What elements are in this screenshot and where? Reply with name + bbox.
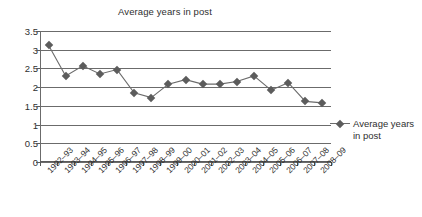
gridline [40,143,331,144]
legend-diamond-marker-icon [336,119,344,127]
y-axis-tick-mark [36,87,40,88]
legend-swatch [330,118,350,129]
chart-title: Average years in post [0,6,330,17]
y-axis-tick-label: 1 [0,119,38,130]
gridline [40,31,331,32]
y-axis-tick-mark [36,106,40,107]
y-axis-tick-label: 2.5 [0,63,38,74]
y-axis-tick-label: 1.5 [0,100,38,111]
y-axis-tick-label: 2 [0,82,38,93]
y-axis-line [40,31,41,162]
gridline [40,125,331,126]
gridline [40,50,331,51]
y-axis-tick-label: 0 [0,157,38,168]
chart-legend: Average years in post [330,118,415,142]
y-axis-tick-label: 3.5 [0,26,38,37]
y-axis-tick-mark [36,125,40,126]
plot-area [40,31,331,162]
x-axis-tick-mark [40,162,41,166]
y-axis-tick-mark [36,50,40,51]
y-axis-tick-label: 0.5 [0,138,38,149]
legend-label: Average years in post [353,118,415,142]
y-axis-tick-mark [36,143,40,144]
gridline [40,106,331,107]
chart-container: Average years in post Average years in p… [0,0,422,217]
y-axis-tick-mark [36,68,40,69]
y-axis-tick-mark [36,31,40,32]
y-axis-tick-label: 3 [0,44,38,55]
